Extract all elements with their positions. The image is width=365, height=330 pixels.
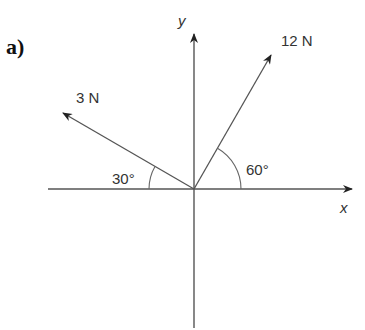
angle-arc-60 [218, 148, 242, 189]
angle-30-label: 30° [112, 170, 135, 187]
angle-60-label: 60° [246, 161, 269, 178]
force-12n-label: 12 N [281, 32, 313, 49]
x-axis-label: x [339, 199, 348, 216]
part-label: a) [6, 34, 24, 59]
y-axis-label: y [177, 12, 187, 29]
angle-arc-30 [149, 167, 155, 190]
force-diagram: a) x y 12 N 60° 3 N 30° [0, 0, 365, 330]
force-3n-label: 3 N [76, 89, 99, 106]
